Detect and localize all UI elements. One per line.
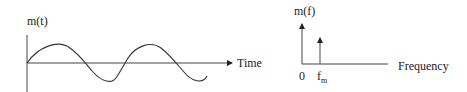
- time-xlabel: Time: [237, 57, 262, 69]
- diagram-canvas: [0, 0, 467, 92]
- freq-xlabel: Frequency: [398, 60, 449, 72]
- freq-ylabel: m(f): [294, 5, 315, 17]
- fm-label: fm: [317, 70, 327, 82]
- time-ylabel: m(t): [27, 15, 48, 27]
- origin-label: 0: [299, 70, 305, 82]
